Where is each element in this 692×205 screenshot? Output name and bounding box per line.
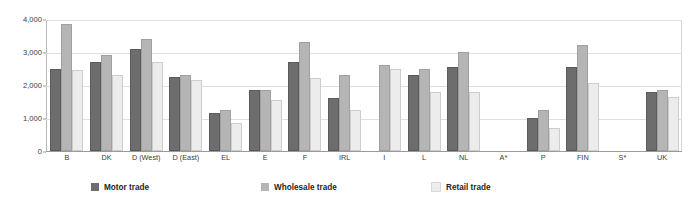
y-axis-tick-label: 2,000: [0, 82, 42, 90]
x-axis-tick-label: FIN: [563, 154, 603, 162]
bar-wholesale: [101, 55, 112, 151]
bar-motor: [130, 49, 141, 151]
x-axis-tick-label: L: [404, 154, 444, 162]
bar-motor: [209, 113, 220, 151]
legend-label: Motor trade: [104, 183, 149, 192]
bar-cluster: [166, 20, 206, 151]
bar-motor: [169, 77, 180, 151]
y-axis-tick-label: 1,000: [0, 115, 42, 123]
bar-retail: [469, 92, 480, 151]
bar-motor: [249, 90, 260, 151]
bar-cluster: [245, 20, 285, 151]
bar-cluster: [126, 20, 166, 151]
bar-retail: [668, 97, 679, 151]
legend-swatch-icon: [261, 183, 269, 191]
bar-cluster: [484, 20, 524, 151]
legend-item[interactable]: Retail trade: [431, 182, 601, 192]
bar-motor: [328, 98, 339, 151]
bar-cluster: [206, 20, 246, 151]
bar-cluster: [365, 20, 405, 151]
bar-motor: [90, 62, 101, 151]
x-axis-tick-label: P: [523, 154, 563, 162]
legend-item[interactable]: Wholesale trade: [261, 183, 431, 192]
bar-wholesale: [220, 110, 231, 151]
x-axis-tick-label: B: [47, 154, 87, 162]
bar-motor: [288, 62, 299, 151]
bar-cluster: [523, 20, 563, 151]
bar-retail: [549, 128, 560, 151]
bar-wholesale: [458, 52, 469, 151]
bar-wholesale: [260, 90, 271, 151]
x-axis-tick-label: DK: [87, 154, 127, 162]
bar-wholesale: [180, 75, 191, 151]
bar-cluster: [325, 20, 365, 151]
x-axis-tick-label: D (West): [126, 154, 166, 162]
x-axis-tick-label: E: [245, 154, 285, 162]
bar-motor: [447, 67, 458, 151]
bar-retail: [350, 110, 361, 151]
bar-retail: [191, 80, 202, 151]
chart-legend: Motor tradeWholesale tradeRetail trade: [0, 182, 692, 192]
bar-motor: [566, 67, 577, 151]
bar-motor: [527, 118, 538, 151]
bar-retail: [430, 92, 441, 151]
legend-label: Retail trade: [446, 183, 491, 192]
bar-retail: [390, 69, 401, 152]
bar-cluster: [603, 20, 643, 151]
legend-swatch-icon: [431, 182, 441, 192]
y-axis-tick-label: 0: [0, 148, 42, 156]
bar-cluster: [87, 20, 127, 151]
legend-item[interactable]: Motor trade: [91, 183, 261, 192]
bar-wholesale: [379, 65, 390, 151]
x-axis-tick-label: EL: [206, 154, 246, 162]
x-axis-tick-label: A*: [484, 154, 524, 162]
x-axis-tick-label: D (East): [166, 154, 206, 162]
bar-clusters: [47, 20, 682, 151]
bar-cluster: [47, 20, 87, 151]
bar-cluster: [444, 20, 484, 151]
bar-wholesale: [61, 24, 72, 151]
bar-retail: [152, 62, 163, 151]
bar-wholesale: [577, 45, 588, 151]
x-axis-tick-label: S*: [603, 154, 643, 162]
bar-cluster: [642, 20, 682, 151]
bar-motor: [50, 69, 61, 152]
bar-wholesale: [141, 39, 152, 151]
bar-retail: [588, 83, 599, 151]
x-axis-labels: BDKD (West)D (East)ELEFIRLILNLA*PFINS*UK: [47, 154, 682, 162]
bar-cluster: [404, 20, 444, 151]
bar-retail: [72, 70, 83, 151]
x-axis-tick-label: NL: [444, 154, 484, 162]
bar-motor: [646, 92, 657, 151]
x-axis-tick-label: UK: [642, 154, 682, 162]
x-axis-tick-label: F: [285, 154, 325, 162]
bar-retail: [112, 75, 123, 151]
bar-wholesale: [538, 110, 549, 151]
bar-chart: 01,0002,0003,0004,000 BDKD (West)D (East…: [0, 0, 692, 205]
bar-wholesale: [299, 42, 310, 151]
bar-cluster: [285, 20, 325, 151]
legend-label: Wholesale trade: [274, 183, 337, 192]
bar-wholesale: [419, 69, 430, 152]
x-axis-tick-label: IRL: [325, 154, 365, 162]
legend-swatch-icon: [91, 183, 99, 191]
bar-cluster: [563, 20, 603, 151]
x-axis-baseline: [46, 151, 682, 152]
bar-wholesale: [339, 75, 350, 151]
y-axis-tick-label: 3,000: [0, 49, 42, 57]
bar-retail: [271, 100, 282, 151]
x-axis-tick-label: I: [365, 154, 405, 162]
y-axis-labels: 01,0002,0003,0004,000: [0, 20, 42, 152]
bar-wholesale: [657, 90, 668, 151]
bar-motor: [408, 75, 419, 151]
bar-retail: [231, 123, 242, 151]
bar-retail: [310, 78, 321, 151]
y-axis-tick-label: 4,000: [0, 16, 42, 24]
plot-area: [46, 20, 682, 152]
